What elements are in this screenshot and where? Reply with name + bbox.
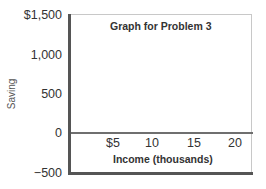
x-tick-15: 15 [187, 137, 201, 150]
plot-area [69, 14, 252, 173]
y-tick-1000: 1,000 [31, 49, 62, 62]
x-axis-label: Income (thousands) [113, 153, 213, 165]
y-tick-0: 0 [55, 127, 62, 140]
y-tick-1500: $1,500 [24, 9, 62, 22]
chart-title: Graph for Problem 3 [110, 20, 212, 32]
zero-line [69, 132, 253, 134]
x-tick-5: $5 [106, 137, 120, 150]
x-axis-bottom [68, 172, 253, 175]
y-axis [68, 14, 71, 175]
y-axis-label: Saving [6, 79, 17, 110]
y-tick-500: 500 [41, 88, 62, 101]
y-tick-neg500: −500 [34, 167, 62, 180]
x-tick-20: 20 [228, 137, 242, 150]
x-tick-10: 10 [145, 137, 159, 150]
